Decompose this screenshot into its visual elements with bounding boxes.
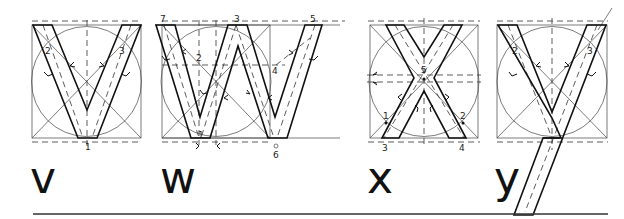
w-outline xyxy=(156,25,322,138)
stroke-centerline xyxy=(236,25,274,138)
point-label: 4 xyxy=(459,143,465,153)
letter-construction-diagram: 2 3 1 7 3 5 2 4 1 xyxy=(0,0,624,219)
arrow-mark xyxy=(536,62,541,67)
point-marker xyxy=(274,144,278,148)
construction-v: 2 3 1 xyxy=(32,20,143,152)
arrow-mark xyxy=(509,72,517,76)
point-label: 2 xyxy=(460,111,466,121)
stroke-centerline xyxy=(43,25,83,138)
arrow-mark xyxy=(373,82,377,85)
stroke-centerline xyxy=(277,25,315,138)
arrow-mark xyxy=(246,90,250,94)
arrow-mark xyxy=(309,56,318,60)
point-label: 2 xyxy=(196,53,202,63)
arrow-mark xyxy=(224,95,228,100)
point-label: 2 xyxy=(45,46,51,56)
glyph-y: y xyxy=(494,152,520,203)
point-label: 3 xyxy=(234,14,240,24)
point-marker xyxy=(423,78,426,81)
point-label: 6 xyxy=(273,150,279,160)
point-label: 3 xyxy=(119,46,125,56)
point-label: 1 xyxy=(198,130,204,140)
point-label: 5 xyxy=(310,14,316,24)
stroke-centerline xyxy=(201,25,236,138)
point-label: 1 xyxy=(85,142,91,152)
point-marker xyxy=(385,122,388,125)
point-label: 2 xyxy=(512,46,518,56)
point-label: 5 xyxy=(421,65,427,75)
arrow-mark xyxy=(373,72,377,75)
arrow-mark xyxy=(70,62,75,67)
point-label: 7 xyxy=(160,14,166,24)
construction-x: 5 1 2 3 4 xyxy=(367,18,481,153)
arrow-mark xyxy=(217,143,220,149)
arrow-mark xyxy=(289,50,293,55)
point-marker xyxy=(462,122,465,125)
point-label: 3 xyxy=(587,46,593,56)
point-label: 1 xyxy=(383,111,389,121)
glyph-w: w xyxy=(160,152,196,203)
glyph-x: x xyxy=(367,152,393,203)
arrow-mark xyxy=(196,143,199,149)
arrow-mark xyxy=(398,94,402,100)
glyph-v: v xyxy=(30,152,56,203)
point-label: 4 xyxy=(272,66,278,76)
stroke-centerline xyxy=(164,25,199,138)
construction-w: 7 3 5 2 4 1 6 xyxy=(155,14,345,160)
